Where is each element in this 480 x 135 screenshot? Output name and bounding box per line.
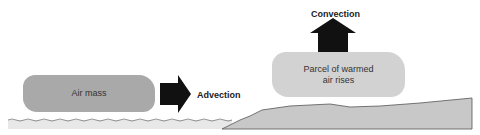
convection-arrow-icon <box>310 18 356 52</box>
parcel-label-line2: air rises <box>303 75 373 86</box>
warm-air-parcel-blob: Parcel of warmed air rises <box>272 52 405 97</box>
air-mass-blob: Air mass <box>23 75 155 112</box>
land-surface <box>222 98 472 129</box>
air-mass-label: Air mass <box>71 88 106 99</box>
convection-label: Convection <box>311 9 360 19</box>
water-surface <box>8 119 232 129</box>
advection-arrow-icon <box>160 75 191 113</box>
advection-label: Advection <box>197 90 241 100</box>
diagram-canvas <box>0 0 480 135</box>
parcel-label-line1: Parcel of warmed <box>303 64 373 75</box>
